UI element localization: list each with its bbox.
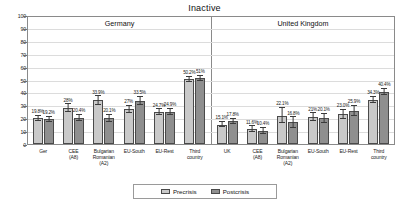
error-bar-cap-top: [310, 112, 316, 113]
bar-group: 27%33.5%: [119, 17, 149, 144]
error-bar-cap-top: [260, 127, 266, 128]
error-bar-cap-bottom: [370, 102, 376, 103]
error-bar-cap-top: [230, 118, 236, 119]
bar-group: 15.1%17.8%: [212, 17, 242, 144]
bar-value-label: 33.9%: [92, 90, 104, 95]
legend-item-postcrisis: Postcrisis: [211, 188, 249, 195]
bar: [184, 79, 194, 144]
y-axis-tick-mark: [23, 29, 27, 30]
error-bar-cap-top: [249, 125, 255, 126]
bar: [154, 112, 164, 144]
error-bar-cap-top: [340, 109, 346, 110]
bar-pre: 21%: [308, 17, 318, 144]
category-label: EU-South: [303, 147, 333, 177]
bar-post: 20.1%: [104, 17, 114, 144]
bar-pre: 28%: [63, 17, 73, 144]
error-bar-cap-top: [321, 113, 327, 114]
error-bar-cap-top: [381, 88, 387, 89]
category-labels-united-kingdom: UKCEE(A8)BulgarianRomanian(A2)EU-SouthEU…: [212, 147, 394, 177]
bar-value-label: 40.4%: [378, 82, 390, 87]
bar-pre: 24.7%: [154, 17, 164, 144]
bar-value-label: 34.3%: [367, 90, 379, 95]
error-bar-cap-bottom: [137, 104, 143, 105]
bar-post: 33.5%: [135, 17, 145, 144]
error-bar-cap-bottom: [381, 94, 387, 95]
bar-post: 20.1%: [319, 17, 329, 144]
error-bar-cap-bottom: [230, 123, 236, 124]
error-bar-cap-bottom: [46, 121, 52, 122]
legend-item-precrisis: Precrisis: [161, 188, 197, 195]
bar-group: 22.1%16.8%: [273, 17, 303, 144]
category-label: CEE(A8): [242, 147, 272, 177]
legend-swatch-precrisis: [161, 189, 170, 194]
bar-pre: 15.1%: [217, 17, 227, 144]
bar-pre: 19.8%: [33, 17, 43, 144]
bar-pre: 23.0%: [338, 17, 348, 144]
legend-label-precrisis: Precrisis: [173, 188, 197, 195]
bar-value-label: 21%: [308, 107, 317, 112]
error-bar-cap-top: [279, 107, 285, 108]
error-bar-cap-bottom: [106, 121, 112, 122]
bar-pre: 22.1%: [277, 17, 287, 144]
bar-value-label: 10.4%: [257, 121, 269, 126]
y-axis-tick-mark: [23, 16, 27, 17]
bar-post: 16.8%: [288, 17, 298, 144]
bar-pre: 50.2%: [184, 17, 194, 144]
category-label: BulgarianRomanian(A2): [89, 147, 119, 177]
bar-pre: 11.6%: [247, 17, 257, 144]
y-axis-tick-mark: [23, 81, 27, 82]
bar-value-label: 19.2%: [43, 110, 55, 115]
chart-legend: Precrisis Postcrisis: [133, 184, 277, 199]
bar: [308, 117, 318, 144]
y-axis-tick-mark: [23, 68, 27, 69]
bar: [135, 101, 145, 144]
error-bar-cap-bottom: [279, 122, 285, 123]
bar-value-label: 33.5%: [134, 90, 146, 95]
error-bar-cap-top: [126, 105, 132, 106]
bar-post: 51%: [195, 17, 205, 144]
category-label: EU-Rest: [333, 147, 363, 177]
bar: [195, 78, 205, 144]
legend-swatch-postcrisis: [211, 189, 220, 194]
bar-value-label: 22.1%: [276, 101, 288, 106]
legend-label-postcrisis: Postcrisis: [223, 188, 249, 195]
bar: [165, 112, 175, 144]
bar-value-label: 28%: [64, 98, 73, 103]
bar-post: 10.4%: [258, 17, 268, 144]
y-axis-tick-mark: [23, 132, 27, 133]
error-bar-cap-top: [76, 114, 82, 115]
error-bar-cap-top: [370, 96, 376, 97]
error-bar-cap-bottom: [35, 120, 41, 121]
error-bar-cap-bottom: [197, 80, 203, 81]
bar-post: 40.4%: [379, 17, 389, 144]
bar-group: 23.0%25.9%: [333, 17, 363, 144]
bar: [93, 100, 103, 144]
bar-post: 19.2%: [44, 17, 54, 144]
bar: [33, 118, 43, 144]
y-axis-tick-mark: [23, 106, 27, 107]
bar-group: 33.9%20.1%: [89, 17, 119, 144]
bar-pre: 27%: [124, 17, 134, 144]
error-bar-cap-top: [186, 76, 192, 77]
category-labels-germany: GerCEE(A8)BulgarianRomanian(A2)EU-SouthE…: [28, 147, 210, 177]
y-axis-tick-mark: [23, 55, 27, 56]
error-bar-cap-bottom: [126, 112, 132, 113]
category-label: EU-Rest: [149, 147, 179, 177]
category-label: EU-South: [119, 147, 149, 177]
error-bar-cap-bottom: [76, 120, 82, 121]
error-bar-cap-bottom: [321, 122, 327, 123]
bar-value-label: 23.0%: [337, 103, 349, 108]
bar-post: 20.4%: [74, 17, 84, 144]
error-bar-cap-bottom: [290, 127, 296, 128]
bar-group: 50.2%51%: [180, 17, 210, 144]
bar-group: 28%20.4%: [58, 17, 88, 144]
bar-value-label: 16.8%: [287, 111, 299, 116]
bar-group: 24.7%24.9%: [149, 17, 179, 144]
bar: [44, 119, 54, 144]
bar-group: 34.3%40.4%: [364, 17, 394, 144]
bar-post: 24.9%: [165, 17, 175, 144]
y-axis-tick-mark: [23, 119, 27, 120]
error-bar-cap-top: [35, 115, 41, 116]
bar-pre: 34.3%: [368, 17, 378, 144]
error-bar-cap-bottom: [351, 115, 357, 116]
